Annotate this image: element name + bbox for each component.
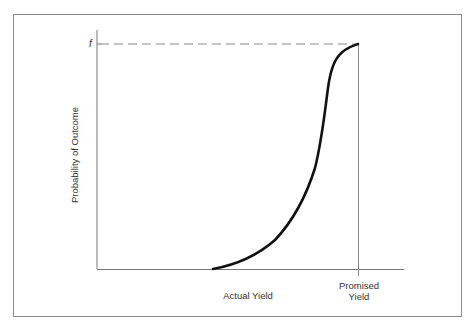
- promised-yield-label: Promised Yield: [339, 280, 379, 302]
- promised-label-line2: Yield: [339, 291, 379, 302]
- x-axis-label: Actual Yield: [223, 290, 273, 301]
- promised-label-line1: Promised: [339, 280, 379, 291]
- probability-curve: [213, 44, 358, 269]
- y-axis-label: Probability of Outcome: [69, 107, 80, 203]
- f-label: f: [89, 38, 92, 49]
